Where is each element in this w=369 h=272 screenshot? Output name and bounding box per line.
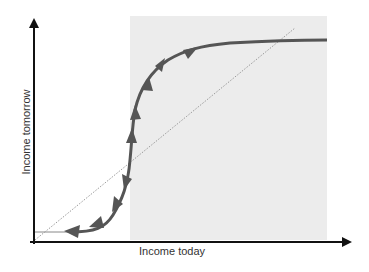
shaded-region (130, 16, 327, 240)
y-axis-label: Income tomorrow (20, 90, 32, 175)
arrow-icon (64, 225, 80, 238)
x-axis-label: Income today (139, 245, 205, 257)
arrow-icon (89, 216, 104, 228)
poverty-trap-diagram (0, 0, 369, 272)
